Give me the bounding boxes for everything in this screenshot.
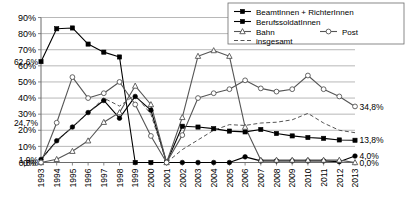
series-marker-1 <box>54 138 59 143</box>
y-axis-tick-label: 80% <box>18 29 36 39</box>
data-annotations-group: 62,6%24,7%1,9%0,0%34,8%13,8%4,0%0,0% <box>14 57 384 168</box>
legend-label: BerufssoldatInnen <box>256 18 321 27</box>
series-marker-0 <box>86 42 90 46</box>
x-axis-tick-label: 1999 <box>130 168 140 187</box>
series-marker-0 <box>227 129 231 133</box>
series-marker-3 <box>39 160 44 165</box>
series-marker-3 <box>196 96 201 101</box>
series-marker-2 <box>54 156 59 161</box>
series-marker-2 <box>180 114 185 119</box>
x-axis-tick-label: 2002 <box>178 168 188 187</box>
series-marker-1 <box>133 94 138 99</box>
series-marker-3 <box>180 133 185 138</box>
series-marker-1 <box>86 110 91 115</box>
legend-label: Post <box>342 28 359 37</box>
series-marker-3 <box>70 75 75 80</box>
x-axis-labels-group: 1993199419951996199719981999200020012002… <box>36 163 360 188</box>
series-marker-0 <box>306 135 310 139</box>
series-marker-1 <box>117 116 122 121</box>
series-marker-3 <box>353 104 358 109</box>
series-marker-0 <box>322 136 326 140</box>
series-marker-0 <box>337 138 341 142</box>
x-axis-tick-label: 1993 <box>36 168 46 187</box>
series-marker-3 <box>86 96 91 101</box>
chart-container: 90%80%70%60%50%40%30%20%10%0% 1993199419… <box>0 0 410 205</box>
x-axis-tick-label: 1995 <box>68 168 78 187</box>
x-axis-tick-label: 2007 <box>256 168 266 187</box>
y-axis-tick-label: 70% <box>18 45 36 55</box>
data-label: 62,6% <box>14 57 39 67</box>
series-marker-1 <box>180 160 185 165</box>
series-marker-0 <box>212 127 216 131</box>
series-marker-0 <box>290 134 294 138</box>
series-marker-3 <box>133 102 138 107</box>
y-axis-labels-group: 90%80%70%60%50%40%30%20%10%0% <box>18 13 36 168</box>
legend-marker <box>240 19 244 23</box>
series-marker-3 <box>101 91 106 96</box>
data-label: 13,8% <box>360 135 385 145</box>
data-label: 34,8% <box>360 102 385 112</box>
x-axis-tick-label: 1997 <box>99 168 109 187</box>
series-marker-3 <box>258 86 263 91</box>
x-axis-tick-label: 1998 <box>115 168 125 187</box>
series-marker-0 <box>70 26 74 30</box>
series-marker-0 <box>243 130 247 134</box>
series-marker-0 <box>353 138 357 142</box>
series-marker-2 <box>133 83 138 88</box>
series-marker-0 <box>117 55 121 59</box>
data-label: 24,7% <box>14 118 39 128</box>
x-axis-tick-label: 2004 <box>209 168 219 187</box>
x-axis-tick-label: 2013 <box>350 168 360 187</box>
legend-marker <box>326 29 331 34</box>
legend-marker <box>240 9 244 13</box>
series-marker-3 <box>164 160 169 165</box>
x-axis-tick-label: 2009 <box>287 168 297 187</box>
x-axis-tick-label: 1994 <box>52 168 62 187</box>
y-axis-tick-label: 50% <box>18 77 36 87</box>
series-marker-0 <box>133 160 137 164</box>
series-line-3 <box>41 76 355 163</box>
x-axis-tick-label: 2008 <box>272 168 282 187</box>
series-marker-0 <box>259 127 263 131</box>
line-chart: 90%80%70%60%50%40%30%20%10%0% 1993199419… <box>0 0 410 205</box>
y-axis-tick-label: 40% <box>18 93 36 103</box>
series-marker-3 <box>321 87 326 92</box>
chart-legend: BeamtInnen + RichterInnenBerufssoldatInn… <box>228 3 404 46</box>
y-axis-tick-label: 90% <box>18 13 36 23</box>
series-marker-0 <box>274 131 278 135</box>
x-axis-tick-label: 2006 <box>240 168 250 187</box>
series-marker-0 <box>39 60 43 64</box>
series-marker-3 <box>149 134 154 139</box>
x-axis-tick-label: 2005 <box>225 168 235 187</box>
series-marker-1 <box>227 160 232 165</box>
series-marker-3 <box>274 89 279 94</box>
series-marker-1 <box>353 154 358 159</box>
series-marker-0 <box>180 124 184 128</box>
x-axis-tick-label: 2012 <box>335 168 345 187</box>
series-marker-0 <box>196 125 200 129</box>
x-axis-tick-label: 2011 <box>319 168 329 187</box>
series-marker-3 <box>211 91 216 96</box>
series-marker-1 <box>149 108 154 113</box>
x-axis-tick-label: 2003 <box>193 168 203 187</box>
series-marker-3 <box>54 120 59 125</box>
data-label: 0,0% <box>19 158 39 168</box>
series-marker-2 <box>211 48 216 53</box>
series-marker-1 <box>196 160 201 165</box>
legend-label: insgesamt <box>256 37 293 46</box>
y-axis-tick-label: 10% <box>18 142 36 152</box>
series-marker-2 <box>101 119 106 124</box>
series-marker-3 <box>306 73 311 78</box>
series-marker-1 <box>243 155 248 160</box>
series-marker-2 <box>70 148 75 153</box>
x-axis-tick-label: 2010 <box>303 168 313 187</box>
series-marker-3 <box>227 87 232 92</box>
series-marker-3 <box>337 94 342 99</box>
series-line-1 <box>41 96 355 162</box>
series-marker-0 <box>102 50 106 54</box>
series-marker-1 <box>102 98 107 103</box>
data-label: 0,0% <box>360 158 380 168</box>
series-marker-1 <box>211 160 216 165</box>
series-marker-0 <box>55 27 59 31</box>
series-marker-1 <box>70 125 75 130</box>
